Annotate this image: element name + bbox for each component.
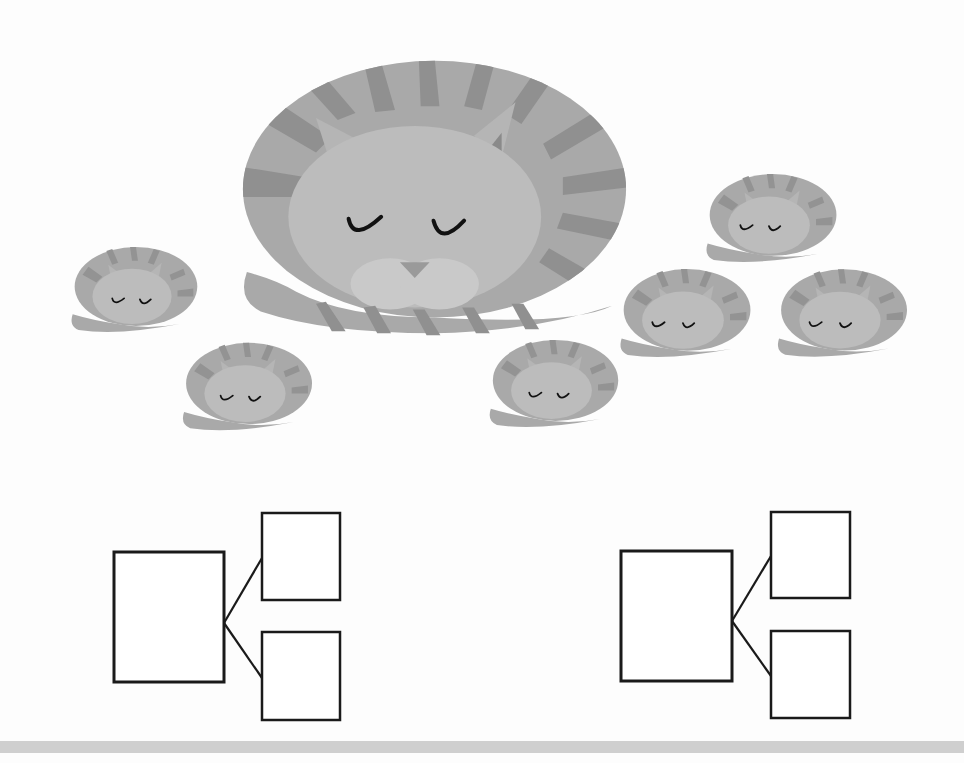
whole-box[interactable] [621, 551, 732, 681]
bottom-divider-bar [0, 741, 964, 753]
connector-line [224, 623, 262, 678]
connector-line [224, 558, 262, 623]
connector-line [732, 556, 771, 621]
sleeping-cat-illustration [703, 172, 837, 264]
sleeping-cat-illustration [486, 338, 619, 429]
sleeping-cat-illustration [617, 267, 751, 359]
part-box-top[interactable] [262, 513, 340, 600]
sleeping-cat-illustration [180, 340, 312, 433]
connector-line [732, 621, 771, 676]
big-cat [237, 57, 632, 337]
worksheet: Sleeping cats: 1 big cat and 6 small cat… [0, 0, 964, 763]
small-cat-2 [180, 340, 312, 433]
part-box-bottom[interactable] [262, 632, 340, 720]
small-cat-4 [703, 172, 837, 264]
whole-box[interactable] [114, 552, 224, 682]
small-cat-5 [617, 267, 751, 359]
sleeping-cat-illustration [237, 57, 632, 337]
small-cat-6 [775, 267, 907, 359]
part-box-bottom[interactable] [771, 631, 850, 718]
part-box-top[interactable] [771, 512, 850, 598]
small-cat-1 [67, 245, 199, 334]
sleeping-cat-illustration [67, 245, 199, 334]
small-cat-3 [486, 338, 619, 429]
sleeping-cat-illustration [775, 267, 907, 359]
